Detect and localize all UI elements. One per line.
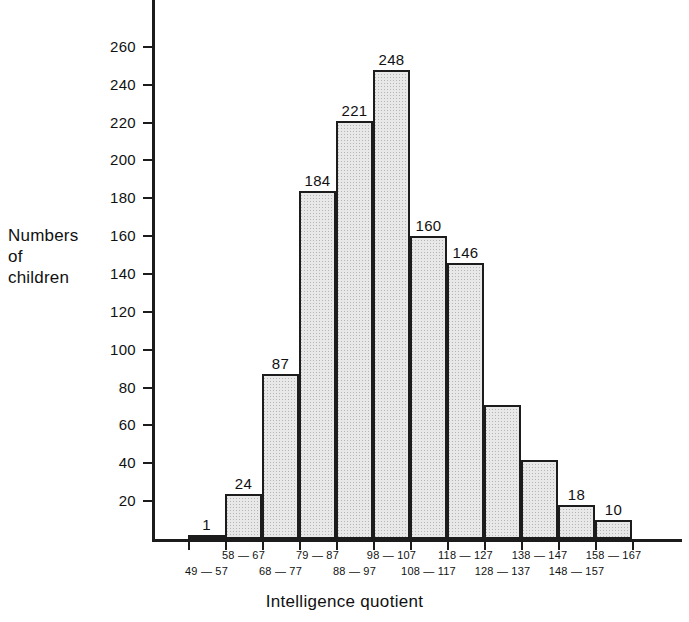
x-bin-label-2: 68 — 77 xyxy=(244,565,318,577)
x-bin-label-7: 118 — 127 xyxy=(429,549,503,561)
bar-2 xyxy=(262,374,299,539)
bar-value-label-7: 146 xyxy=(436,244,495,261)
bar-value-label-6: 160 xyxy=(399,217,458,234)
x-bin-label-1: 58 — 67 xyxy=(207,549,281,561)
bar-7 xyxy=(447,263,484,539)
x-bin-label-10: 148 — 157 xyxy=(540,565,614,577)
bar-3 xyxy=(299,191,336,539)
x-bin-label-4: 88 — 97 xyxy=(318,565,392,577)
bar-5 xyxy=(373,70,410,539)
x-axis-title: Intelligence quotient xyxy=(0,592,689,612)
bar-6 xyxy=(410,236,447,539)
x-bin-label-6: 108 — 117 xyxy=(392,565,466,577)
x-bin-label-0: 49 — 57 xyxy=(170,565,244,577)
bar-series: 124871842212481601461810 xyxy=(0,0,689,542)
x-bin-label-8: 128 — 137 xyxy=(466,565,540,577)
bar-11 xyxy=(595,520,632,539)
bar-value-label-5: 248 xyxy=(362,51,421,68)
x-bin-label-3: 79 — 87 xyxy=(281,549,355,561)
x-bin-label-5: 98 — 107 xyxy=(355,549,429,561)
bar-value-label-11: 10 xyxy=(584,501,643,518)
bar-8 xyxy=(484,405,521,539)
bar-0 xyxy=(188,535,225,539)
histogram-chart: Numbers of children 20406080100120140160… xyxy=(0,0,689,622)
x-bin-label-9: 138 — 147 xyxy=(503,549,577,561)
bar-4 xyxy=(336,121,373,539)
x-bin-label-11: 158 — 167 xyxy=(577,549,651,561)
bar-1 xyxy=(225,494,262,539)
